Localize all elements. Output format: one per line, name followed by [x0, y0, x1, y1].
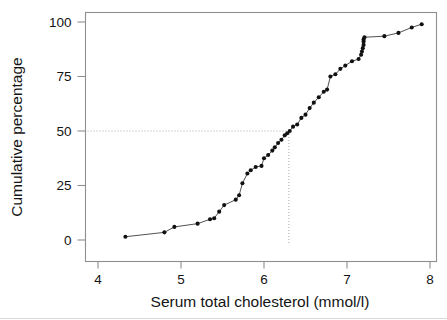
data-point-marker [245, 171, 249, 175]
data-point-marker [295, 122, 299, 126]
data-point-marker [217, 210, 221, 214]
data-point-marker [262, 156, 266, 160]
chart-background [0, 0, 447, 320]
data-point-marker [212, 216, 216, 220]
data-point-marker [288, 129, 292, 133]
data-point-marker [276, 141, 280, 145]
cumulative-percentage-chart: 45678 0255075100 Serum total cholesterol… [0, 0, 447, 320]
data-point-marker [303, 113, 307, 117]
data-point-marker [249, 168, 253, 172]
y-tick-label: 75 [56, 69, 71, 84]
data-point-marker [234, 198, 238, 202]
data-point-marker [270, 149, 274, 153]
data-point-marker [362, 35, 366, 39]
data-point-marker [172, 225, 176, 229]
data-point-marker [273, 145, 277, 149]
data-point-marker [317, 95, 321, 99]
data-point-marker [266, 153, 270, 157]
data-point-marker [420, 22, 424, 26]
data-point-marker [299, 116, 303, 120]
data-point-marker [196, 222, 200, 226]
data-point-marker [343, 64, 347, 68]
data-point-marker [123, 235, 127, 239]
data-point-marker [279, 138, 283, 142]
data-point-marker [312, 101, 316, 105]
chart-canvas: 45678 0255075100 Serum total cholesterol… [0, 0, 447, 320]
data-point-marker [350, 59, 354, 63]
y-axis-title: Cumulative percentage [8, 57, 25, 216]
x-axis-title: Serum total cholesterol (mmol/l) [151, 293, 370, 310]
data-point-marker [333, 72, 337, 76]
data-point-marker [308, 106, 312, 110]
data-point-marker [162, 230, 166, 234]
data-point-marker [208, 217, 212, 221]
y-tick-label: 100 [49, 15, 72, 30]
data-point-marker [396, 31, 400, 35]
x-tick-label: 6 [260, 272, 268, 287]
data-point-marker [382, 34, 386, 38]
data-point-marker [357, 57, 361, 61]
data-point-marker [291, 125, 295, 129]
data-point-marker [328, 74, 332, 78]
y-tick-label: 0 [64, 233, 72, 248]
y-tick-label: 25 [56, 178, 71, 193]
data-point-marker [410, 25, 414, 29]
data-point-marker [240, 181, 244, 185]
y-tick-label: 50 [56, 124, 71, 139]
data-point-marker [222, 203, 226, 207]
data-point-marker [254, 165, 258, 169]
x-tick-label: 7 [343, 272, 351, 287]
data-point-marker [338, 67, 342, 71]
data-point-marker [237, 193, 241, 197]
data-point-marker [259, 164, 263, 168]
data-point-marker [325, 88, 329, 92]
x-tick-label: 4 [94, 272, 102, 287]
x-tick-label: 5 [177, 272, 185, 287]
x-tick-label: 8 [426, 272, 434, 287]
